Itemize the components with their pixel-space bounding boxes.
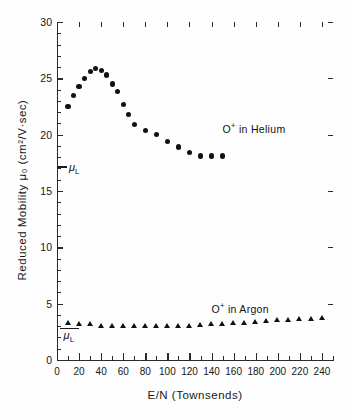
data-point xyxy=(230,320,236,325)
data-point xyxy=(98,323,104,328)
data-point xyxy=(274,317,280,322)
data-point xyxy=(65,320,71,325)
y-axis-title: Reduced Mobility μ₀ (cm²/V·sec) xyxy=(8,10,36,370)
data-point xyxy=(241,320,247,325)
series-label-helium: O+ in Helium xyxy=(223,121,286,135)
data-point xyxy=(252,319,258,324)
y-axis-title-text: Reduced Mobility μ₀ (cm²/V·sec) xyxy=(16,100,28,281)
data-point xyxy=(131,323,137,328)
x-tick-label: 180 xyxy=(247,366,264,377)
series-label-argon: O+ in Argon xyxy=(212,301,269,315)
plot-area: 051015202530 020406080100120140160180200… xyxy=(57,22,333,361)
data-point xyxy=(285,317,291,322)
data-point xyxy=(308,316,314,321)
y-tick-label: 15 xyxy=(40,185,52,197)
data-point xyxy=(76,321,82,326)
x-tick-label: 140 xyxy=(203,366,220,377)
x-tick-label: 40 xyxy=(96,366,107,377)
x-tick-label: 120 xyxy=(181,366,198,377)
data-point xyxy=(319,315,325,320)
data-point xyxy=(219,321,225,326)
x-tick-label: 0 xyxy=(54,366,60,377)
y-tick-label: 0 xyxy=(46,354,52,366)
data-point xyxy=(87,321,93,326)
mu_L_helium-label: μL xyxy=(69,161,79,176)
data-point xyxy=(120,323,126,328)
x-tick-label: 20 xyxy=(74,366,85,377)
y-tick-label: 10 xyxy=(40,241,52,253)
x-tick-label: 80 xyxy=(140,366,151,377)
data-point xyxy=(263,318,269,323)
data-point xyxy=(186,323,192,328)
x-tick-minor xyxy=(333,356,334,361)
y-tick-label: 25 xyxy=(40,72,52,84)
x-tick-label: 160 xyxy=(225,366,242,377)
figure-canvas: Reduced Mobility μ₀ (cm²/V·sec) E/N (Tow… xyxy=(0,0,353,420)
data-point xyxy=(197,322,203,327)
mu_L_helium-bar xyxy=(57,166,67,168)
x-tick-label: 100 xyxy=(159,366,176,377)
data-point xyxy=(208,321,214,326)
data-point xyxy=(296,316,302,321)
x-tick-label: 60 xyxy=(118,366,129,377)
data-point xyxy=(175,323,181,328)
data-point xyxy=(153,323,159,328)
x-axis-title: E/N (Townsends) xyxy=(57,389,333,401)
mu_L_argon-label: μL xyxy=(64,329,74,344)
x-tick-label: 240 xyxy=(314,366,331,377)
x-tick-label: 220 xyxy=(292,366,309,377)
data-point xyxy=(109,323,115,328)
y-tick-label: 20 xyxy=(40,129,52,141)
data-point xyxy=(142,323,148,328)
data-point xyxy=(164,323,170,328)
data-series-argon xyxy=(57,22,333,361)
y-tick-label: 30 xyxy=(40,16,52,28)
y-tick-label: 5 xyxy=(46,298,52,310)
x-tick-label: 200 xyxy=(269,366,286,377)
